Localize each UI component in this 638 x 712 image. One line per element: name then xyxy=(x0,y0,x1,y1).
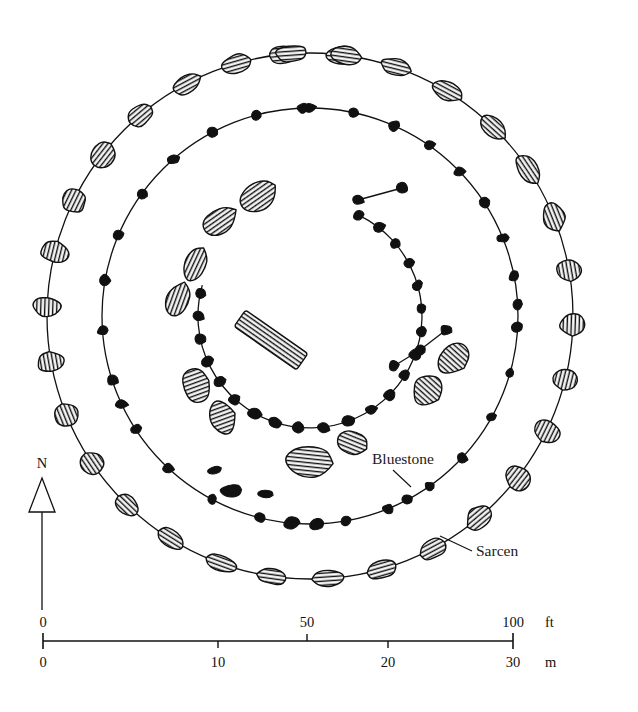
bluestone-circle-stone xyxy=(510,320,525,334)
bluestone-circle-stone xyxy=(497,233,510,242)
sarcen-stone xyxy=(256,567,287,586)
bluestone-circle-stone xyxy=(115,399,129,410)
sarcen-stones xyxy=(33,44,586,587)
sarcen-stone xyxy=(86,137,121,172)
trilithon-sarcen-stone xyxy=(284,444,334,479)
sarcen-stone xyxy=(124,99,156,131)
bluestone-horseshoe-stone xyxy=(192,309,207,323)
scale-bar: 050100ft0102030m xyxy=(39,614,557,670)
bluestone-horseshoe-stone xyxy=(415,326,427,338)
bluestone-circle-stone xyxy=(112,229,125,241)
north-label: N xyxy=(37,455,48,471)
trilithon-sarcen-stone xyxy=(179,365,215,406)
bluestone-circle-stone xyxy=(250,109,262,122)
trilithon-sarcen-stone xyxy=(161,278,194,319)
scale-unit-ft: ft xyxy=(545,614,554,630)
bluestone-circle-stone xyxy=(382,504,394,515)
bluestone-horseshoe-stone xyxy=(403,257,416,268)
bluestone-horseshoe-stone xyxy=(372,220,387,233)
bluestone-circle-stone xyxy=(512,299,523,311)
sarcen-stone xyxy=(39,238,71,265)
plan-canvas: BluestoneSarcen N 050100ft0102030m xyxy=(0,0,638,712)
sarcen-stone xyxy=(559,313,585,336)
bluestone-circle-stone xyxy=(106,373,121,387)
sarcen-stone xyxy=(530,417,563,448)
bluestone-circle-stone xyxy=(340,515,353,527)
bluestone-circle-stone xyxy=(478,195,492,209)
inner-trilithon-stones xyxy=(161,174,475,480)
bluestone-circle-stone xyxy=(130,423,143,434)
trilithon-sarcen-stone xyxy=(406,368,449,412)
north-arrow-head-icon xyxy=(29,478,55,512)
bluestone-circle-stone xyxy=(508,270,519,281)
bluestone-circle-stone xyxy=(99,274,112,287)
sarcen-stone xyxy=(170,69,205,98)
sarcen-stone xyxy=(154,524,187,554)
bluestone-label: Bluestone xyxy=(372,450,434,467)
bluestone-horseshoe-stone xyxy=(439,324,453,338)
fallen-bluestone xyxy=(220,484,243,499)
trilithon-sarcen-stone xyxy=(199,200,243,241)
fallen-bluestone xyxy=(257,489,274,499)
bluestone-circle-stone xyxy=(283,516,300,529)
sarcen-stone xyxy=(555,258,583,284)
bluestone-circle-stone xyxy=(347,107,360,119)
bluestone-circle-stone xyxy=(97,325,108,334)
sarcen-stone xyxy=(51,399,82,429)
trilithon-sarcen-stone xyxy=(178,243,212,284)
sarcen-stone xyxy=(311,569,344,587)
bluestone-circle-stone xyxy=(389,121,400,132)
bluestone-horseshoe-stone xyxy=(212,375,227,388)
bluestone-horseshoe-stone xyxy=(200,355,216,369)
bluestone-horseshoe-stone xyxy=(411,279,425,292)
bluestone-circle-stone xyxy=(206,493,218,505)
bluestone-circle-stone xyxy=(400,493,414,506)
sarcen-stone xyxy=(58,185,89,216)
bluestone-horseshoe-stone xyxy=(353,210,365,221)
sarcen-stone xyxy=(219,51,253,77)
bluestone-horseshoe-stone xyxy=(194,287,208,300)
bluestone-circle-stone xyxy=(308,517,325,532)
bluestone-horseshoe-stone xyxy=(398,369,412,383)
bluestone-horseshoe-stone xyxy=(395,181,410,196)
scale-label-m: 0 xyxy=(39,654,46,670)
trilithon-sarcen-stone xyxy=(432,337,475,381)
fallen-bluestone xyxy=(207,464,223,476)
sarcen-stone xyxy=(203,551,238,576)
bluestone-leader-line xyxy=(393,470,411,487)
sarcen-label: Sarcen xyxy=(476,542,518,559)
trilithon-sarcen-stone xyxy=(235,174,283,219)
scale-label-ft: 100 xyxy=(502,614,524,630)
altar-stone-group xyxy=(234,310,308,370)
altar-stone xyxy=(234,310,308,370)
bluestone-horseshoe-stone xyxy=(193,332,208,346)
scale-label-ft: 50 xyxy=(300,614,315,630)
scale-label-ft: 0 xyxy=(39,614,46,630)
bluestone-circle-stone xyxy=(486,412,498,422)
scale-label-m: 10 xyxy=(211,654,226,670)
bluestone-circle-stone xyxy=(504,368,514,379)
bluestone-horseshoe-stone xyxy=(291,420,306,434)
sarcen-stone xyxy=(538,199,570,235)
bluestone-horseshoe-stone xyxy=(351,194,366,207)
sarcen-stone xyxy=(36,349,65,373)
scale-label-m: 20 xyxy=(381,654,396,670)
bluestone-horseshoe-stone xyxy=(247,407,264,421)
scale-unit-m: m xyxy=(545,654,557,670)
bluestone-horseshoe-stone xyxy=(316,421,332,436)
sarcen-stone xyxy=(33,297,62,317)
bluestone-circle-stone xyxy=(254,512,266,523)
sarcen-stone xyxy=(76,447,108,479)
bluestone-horseshoe-stone xyxy=(268,417,282,428)
north-arrow: N xyxy=(29,455,55,610)
sarcen-stone xyxy=(500,461,535,495)
sarcen-stone xyxy=(429,75,466,107)
sarcen-stone xyxy=(551,367,580,393)
sarcen-stone xyxy=(416,534,449,563)
bluestone-horseshoe-stone xyxy=(415,302,427,314)
scale-label-m: 30 xyxy=(506,654,521,670)
bluestone-circle-stone xyxy=(424,481,436,492)
bluestone-horseshoe-stone xyxy=(340,413,357,428)
sarcen-stone xyxy=(379,55,413,79)
sarcen-stone xyxy=(365,557,398,582)
